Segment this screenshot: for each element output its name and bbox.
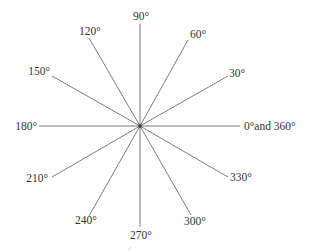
- ray-300: [140, 126, 191, 215]
- label-300: 300°: [184, 215, 206, 227]
- label-90: 90°: [133, 10, 150, 22]
- label-30: 30°: [229, 67, 246, 79]
- label-240: 240°: [75, 214, 97, 226]
- center-point: [139, 125, 142, 128]
- ray-60: [140, 40, 188, 126]
- ray-330: [140, 126, 228, 177]
- label-330: 330°: [230, 171, 252, 183]
- label-180: 180°: [15, 120, 37, 132]
- label-60: 60°: [190, 28, 207, 40]
- label-210: 210°: [26, 172, 48, 184]
- stray-mark: [128, 247, 131, 251]
- ray-120: [89, 38, 140, 126]
- label-120: 120°: [79, 25, 101, 37]
- label-270: 270°: [130, 229, 152, 241]
- ray-30: [140, 76, 228, 126]
- label-150: 150°: [28, 65, 50, 77]
- ray-150: [52, 76, 140, 126]
- ray-210: [52, 126, 140, 177]
- ray-240: [89, 126, 140, 216]
- label-0: 0°and 360°: [244, 120, 296, 132]
- angle-labels: 0°and 360°30°60°90°120°150°180°210°240°2…: [15, 10, 296, 241]
- angle-rose-diagram: 0°and 360°30°60°90°120°150°180°210°240°2…: [0, 0, 313, 251]
